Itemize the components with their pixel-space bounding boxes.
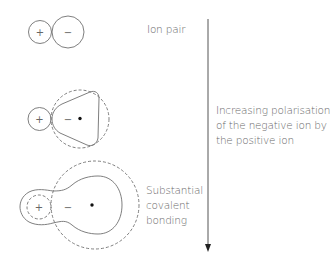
increasing-polarisation-arrow: [205, 19, 211, 252]
ion-pair-group: + −: [29, 16, 85, 48]
covalent-label-line: Substantial: [146, 183, 203, 198]
covalent-label-line: bonding: [146, 213, 203, 228]
ion-pair-label: Ion pair: [147, 22, 185, 37]
arrow-label: Increasing polarisation of the negative …: [216, 103, 330, 148]
nucleus-dot: [78, 117, 81, 120]
polarised-group: + −: [28, 90, 109, 148]
arrow-label-line: Increasing polarisation: [216, 103, 330, 118]
arrow-label-line: of the negative ion by: [216, 118, 330, 133]
anion-sign: −: [64, 114, 72, 125]
covalent-bonding-label: Substantial covalent bonding: [146, 183, 203, 228]
cation-sign: +: [35, 202, 43, 213]
arrow-label-line: the positive ion: [216, 133, 330, 148]
arrow-head-icon: [205, 244, 211, 252]
anion-sign: −: [64, 202, 72, 213]
cation-sign: +: [35, 114, 43, 125]
anion-sign: −: [64, 27, 72, 38]
cation-sign: +: [36, 27, 44, 38]
nucleus-dot: [90, 203, 93, 206]
covalent-group: + −: [20, 161, 139, 249]
covalent-label-line: covalent: [146, 198, 203, 213]
